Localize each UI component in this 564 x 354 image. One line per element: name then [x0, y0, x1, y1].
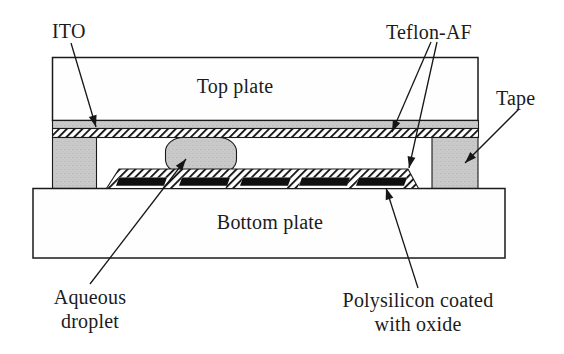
polysilicon-electrode: [116, 178, 167, 186]
polysilicon-electrode: [179, 178, 230, 186]
bottom-plate-label: Bottom plate: [208, 210, 332, 234]
ito-label: ITO: [52, 19, 86, 43]
teflon-af-label: Teflon-AF: [386, 20, 472, 44]
aqueous-droplet-label: Aqueous droplet: [35, 285, 145, 333]
ito-layer: [53, 121, 479, 129]
aqueous-droplet: [166, 138, 237, 174]
polysilicon-electrode: [299, 178, 350, 186]
tape-right-block: [432, 138, 478, 189]
polysilicon-label: Polysilicon coated with oxide: [334, 288, 502, 336]
polysilicon-electrode: [240, 178, 291, 186]
ewod-cross-section-diagram: ITO Teflon-AF Tape Top plate Bottom plat…: [0, 0, 564, 354]
tape-label: Tape: [496, 86, 535, 110]
polysilicon-electrode: [356, 178, 407, 186]
teflon-top-layer: [53, 129, 479, 138]
tape-left-block: [53, 138, 97, 189]
top-plate-label: Top plate: [185, 74, 285, 98]
